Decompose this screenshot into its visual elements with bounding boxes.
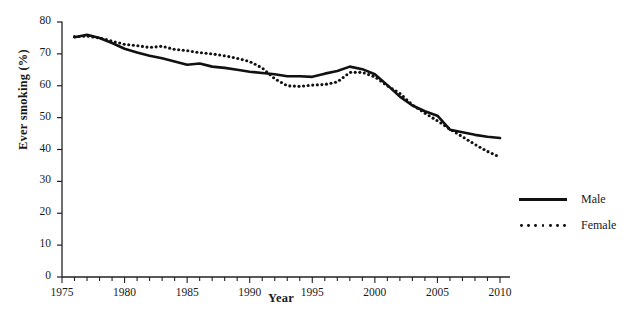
y-tick-label: 80 [21,14,51,26]
y-tick-label: 70 [21,46,51,58]
y-tick-label: 10 [21,237,51,249]
series-line-male [75,35,500,138]
chart-container: Ever smoking (%) Year 01020304050607080 … [0,0,633,315]
chart-legend: Male Female [519,186,616,238]
legend-solid-line-icon [519,193,567,205]
x-tick-label: 1980 [102,286,148,298]
x-tick-label: 1990 [227,286,273,298]
x-tick-label: 1975 [39,286,85,298]
legend-dotted-line-icon [519,219,567,231]
chart-plot-area [0,0,633,315]
x-tick-label: 1985 [164,286,210,298]
x-tick-label: 2000 [352,286,398,298]
legend-item-male: Male [519,186,616,212]
x-tick-label: 1995 [289,286,335,298]
y-tick-label: 30 [21,173,51,185]
legend-label-male: Male [567,192,606,207]
y-tick-label: 40 [21,142,51,154]
x-tick-label: 2005 [414,286,460,298]
legend-label-female: Female [567,218,616,233]
legend-item-female: Female [519,212,616,238]
y-tick-label: 0 [21,269,51,281]
y-tick-label: 50 [21,110,51,122]
x-tick-label: 2010 [477,286,523,298]
y-tick-label: 60 [21,78,51,90]
y-tick-label: 20 [21,205,51,217]
